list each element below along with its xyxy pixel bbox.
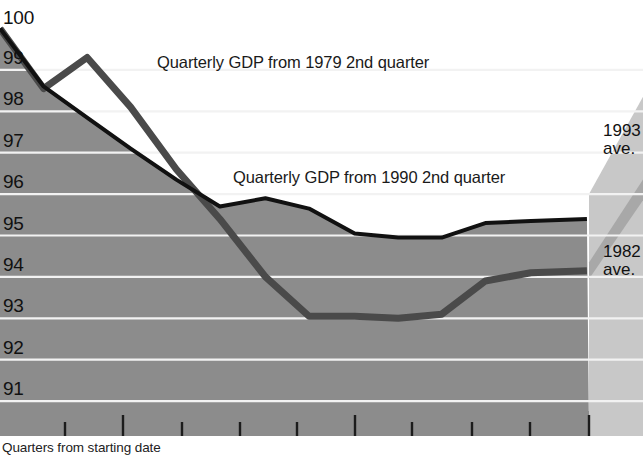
- y-tick-label-94: 94: [3, 255, 24, 274]
- projection-1982-year: 1982: [603, 242, 641, 261]
- projection-1993-suffix: ave.: [603, 140, 641, 158]
- projection-1993: 1993ave.: [603, 122, 641, 158]
- y-tick-label-95: 95: [3, 214, 24, 233]
- x-axis-caption: Quarters from starting date: [2, 440, 161, 455]
- y-tick-label-98: 98: [3, 89, 24, 108]
- y-tick-label-93: 93: [3, 296, 24, 315]
- y-tick-label-96: 96: [3, 172, 24, 191]
- plot-background: [0, 29, 589, 437]
- y-tick-label-100: 100: [3, 8, 34, 27]
- projection-1982: 1982ave.: [603, 243, 641, 279]
- y-tick-label-92: 92: [3, 338, 24, 357]
- y-tick-label-99: 99: [3, 48, 24, 67]
- projection-1993-year: 1993: [603, 121, 641, 140]
- gdp-recession-comparison-chart: 100999897969594939291 Quarterly GDP from…: [0, 0, 643, 461]
- x-axis-band: [0, 411, 643, 436]
- series-label-1979: Quarterly GDP from 1979 2nd quarter: [157, 53, 429, 72]
- series-label-1990: Quarterly GDP from 1990 2nd quarter: [233, 168, 505, 187]
- y-tick-label-97: 97: [3, 131, 24, 150]
- projection-1982-suffix: ave.: [603, 261, 641, 279]
- y-tick-label-91: 91: [3, 379, 24, 398]
